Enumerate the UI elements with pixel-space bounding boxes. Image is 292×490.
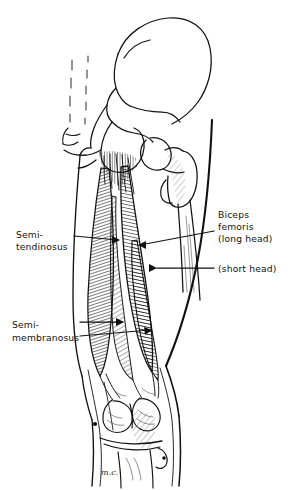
artist-signature: m.c. [101,468,118,477]
label-semimembranosus-line-0: Semi- [12,319,39,330]
label-biceps-line-1: femoris [218,221,254,232]
label-semitendinosus-line-0: Semi- [16,229,43,240]
label-biceps-femoris-short-head: (short head) [218,263,276,274]
anatomical-illustration: Semi- tendinosus Biceps femoris (long he… [0,0,292,490]
label-semimembranosus-line-1: membranosus [12,332,79,343]
label-biceps-line-2: (long head) [218,233,273,244]
label-semitendinosus-line-1: tendinosus [16,241,68,252]
label-biceps-line-0: Biceps [218,209,249,220]
label-short-head-line-0: (short head) [218,263,276,274]
